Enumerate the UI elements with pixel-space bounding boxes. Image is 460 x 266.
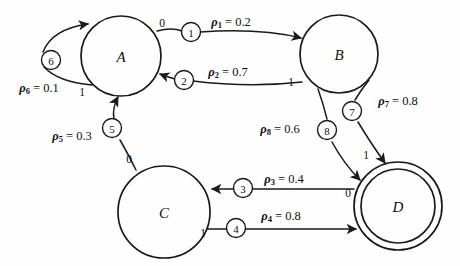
weight-rho-number-3: 0.4 [288, 172, 304, 186]
diagram-canvas: A B C D 1 2 3 4 [0, 0, 460, 266]
node-c-label: C [159, 205, 170, 221]
weight-rho-eq-2: = [219, 65, 232, 79]
edge-b-to-a-seg2 [160, 74, 175, 79]
node-a[interactable]: A [81, 16, 161, 96]
weight-label-rho6: ρ6 = 0.1 [18, 81, 59, 96]
edge-c-to-a-seg2 [114, 97, 119, 119]
weight-label-rho5: ρ5 = 0.3 [51, 129, 92, 144]
edge-marker-1[interactable]: 1 [182, 23, 201, 42]
weight-label-rho8: ρ8 = 0.6 [259, 122, 300, 137]
edge-marker-7-label: 7 [349, 106, 355, 118]
edge-marker-4-label: 4 [233, 223, 239, 235]
node-b[interactable]: B [300, 15, 378, 93]
edge-a-to-b-seg1 [157, 29, 182, 31]
edge-marker-6-label: 6 [48, 55, 54, 67]
weight-rho-eq-3: = [275, 172, 288, 186]
symbol-label-c-out-zero: 0 [126, 153, 132, 165]
edge-a-to-b [157, 29, 301, 38]
edge-b-to-d-eight-seg2 [332, 142, 360, 180]
edge-marker-3-label: 3 [240, 183, 246, 195]
weight-label-rho7: ρ7 = 0.8 [377, 94, 418, 109]
edge-marker-5-label: 5 [109, 123, 115, 135]
symbol-label-a-out-zero: 0 [159, 17, 165, 29]
weight-rho-number-5: 0.3 [76, 129, 92, 143]
weight-rho-number-1: 0.2 [235, 15, 251, 29]
symbol-label-b-to-d-one: 1 [363, 149, 369, 161]
edge-marker-2-label: 2 [181, 75, 187, 87]
weight-label-rho2: ρ2 = 0.7 [207, 65, 248, 80]
weight-rho-number-4: 0.8 [285, 209, 301, 223]
weight-rho-eq-4: = [272, 209, 285, 223]
edge-marker-4[interactable]: 4 [227, 219, 246, 238]
edge-b-to-a-seg1 [193, 81, 302, 85]
weight-rho-eq-6: = [30, 81, 43, 95]
weight-rho-number-6: 0.1 [43, 81, 59, 95]
node-b-label: B [334, 47, 343, 63]
weight-rho-val-1: = [222, 15, 235, 29]
edge-marker-6[interactable]: 6 [42, 51, 61, 70]
symbol-label-a-loop-one: 1 [79, 86, 85, 98]
edge-marker-1-label: 1 [188, 27, 194, 39]
weight-label-rho4: ρ4 = 0.8 [260, 209, 301, 224]
node-c[interactable]: C [118, 166, 210, 258]
weight-rho-eq-5: = [63, 129, 76, 143]
edge-a-to-b-seg2 [200, 31, 301, 38]
edge-b-to-d-eight-seg1 [318, 89, 327, 119]
edge-marker-7[interactable]: 7 [343, 102, 362, 121]
weight-rho-number-7: 0.8 [402, 94, 418, 108]
node-a-label: A [115, 49, 126, 65]
edge-b-to-d-seven [355, 80, 385, 163]
edge-b-to-d-seven-seg2 [358, 122, 385, 163]
state-machine-diagram: A B C D 1 2 3 4 [0, 0, 460, 266]
edge-marker-3[interactable]: 3 [234, 179, 253, 198]
symbol-label-c-out-one: 1 [200, 227, 206, 239]
edge-marker-8-label: 8 [324, 125, 330, 137]
edge-marker-2[interactable]: 2 [175, 71, 194, 90]
weight-rho-number-8: 0.6 [284, 122, 300, 136]
edge-marker-5[interactable]: 5 [103, 119, 122, 138]
weight-label-rho3: ρ3 = 0.4 [263, 172, 304, 187]
edge-marker-8[interactable]: 8 [318, 121, 337, 140]
weight-rho-eq-7: = [389, 94, 402, 108]
weight-rho-number-2: 0.7 [232, 65, 248, 79]
weight-rho-eq-8: = [271, 122, 284, 136]
symbol-label-d-out-zero: 0 [345, 187, 351, 199]
node-d-label: D [392, 199, 404, 215]
symbol-label-b-out-one: 1 [288, 76, 294, 88]
node-d[interactable]: D [354, 162, 442, 250]
weight-label-rho1: ρ1 = 0.2 [210, 15, 251, 30]
